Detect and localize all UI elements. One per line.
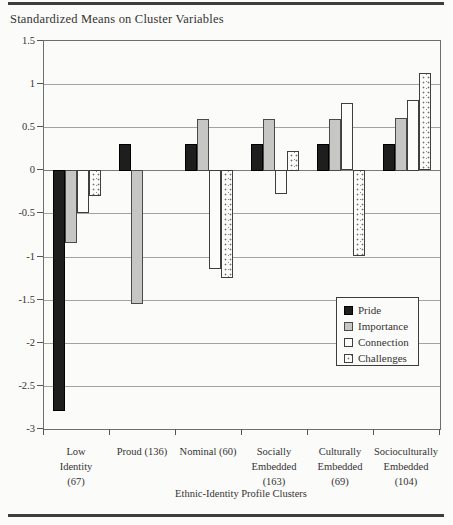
x-tick-mark — [109, 429, 110, 435]
x-tick-mark — [373, 429, 374, 435]
bar-nominal-connection — [209, 170, 221, 269]
bottom-separator-rule — [8, 514, 444, 517]
bar-culturally-embedded-importance — [329, 119, 341, 171]
y-tick-label: -1 — [5, 250, 35, 261]
x-tick-mark — [241, 429, 242, 435]
legend-swatch-importance — [344, 322, 353, 331]
plot-area — [43, 40, 441, 430]
x-tick-mark — [307, 429, 308, 435]
bar-socially-embedded-importance — [263, 119, 275, 171]
legend-item-connection: Connection — [344, 334, 418, 350]
bar-low-identity-pride — [53, 170, 65, 411]
bar-low-identity-importance — [65, 170, 77, 243]
legend-swatch-pride — [344, 306, 353, 315]
gridline-1 — [44, 84, 440, 85]
bar-low-identity-connection — [77, 170, 89, 213]
y-tick-label: -3 — [5, 423, 35, 434]
legend-label-importance: Importance — [358, 320, 408, 332]
y-tick-label: 1.5 — [5, 35, 35, 46]
y-tick-label: 0.5 — [5, 121, 35, 132]
bar-nominal-pride — [185, 144, 197, 171]
legend-label-connection: Connection — [358, 336, 409, 348]
gridline--2.5 — [44, 386, 440, 387]
legend-label-pride: Pride — [358, 304, 381, 316]
bar-proud-importance — [131, 170, 143, 304]
gridline-0.5 — [44, 127, 440, 128]
bar-proud-pride — [119, 144, 131, 171]
legend-item-importance: Importance — [344, 318, 418, 334]
bar-socially-embedded-connection — [275, 170, 287, 194]
gridline--1 — [44, 257, 440, 258]
y-tick-label: -2.5 — [5, 379, 35, 390]
bar-culturally-embedded-connection — [341, 103, 353, 170]
top-separator-rule — [8, 2, 444, 5]
chart-title: Standardized Means on Cluster Variables — [10, 12, 224, 27]
bar-culturally-embedded-challenges — [353, 170, 365, 256]
legend-item-challenges: Challenges — [344, 350, 418, 366]
legend-item-pride: Pride — [344, 302, 418, 318]
y-tick-label: -2 — [5, 336, 35, 347]
x-category-label-socioculturally-embedded: SocioculturallyEmbedded(104) — [360, 444, 452, 489]
x-tick-mark — [43, 429, 44, 435]
legend-swatch-connection — [344, 338, 353, 347]
bar-socially-embedded-challenges — [287, 151, 299, 171]
y-tick-label: 0 — [5, 164, 35, 175]
bar-socially-embedded-pride — [251, 144, 263, 171]
bar-socioculturally-embedded-challenges — [419, 73, 431, 170]
legend: PrideImportanceConnectionChallenges — [336, 297, 419, 366]
bar-socioculturally-embedded-importance — [395, 118, 407, 171]
bar-socioculturally-embedded-pride — [383, 144, 395, 171]
x-tick-mark — [175, 429, 176, 435]
bar-culturally-embedded-pride — [317, 144, 329, 171]
bar-low-identity-challenges — [89, 170, 101, 196]
x-axis-title: Ethnic-Identity Profile Clusters — [43, 488, 439, 499]
y-tick-label: 1 — [5, 78, 35, 89]
x-tick-mark — [439, 429, 440, 435]
bar-nominal-importance — [197, 119, 209, 171]
gridline--0.5 — [44, 213, 440, 214]
legend-swatch-challenges — [344, 354, 353, 363]
bar-socioculturally-embedded-connection — [407, 100, 419, 171]
y-tick-label: -1.5 — [5, 293, 35, 304]
bar-nominal-challenges — [221, 170, 233, 278]
legend-label-challenges: Challenges — [358, 352, 407, 364]
zero-axis-line — [44, 170, 440, 171]
y-tick-label: -0.5 — [5, 207, 35, 218]
